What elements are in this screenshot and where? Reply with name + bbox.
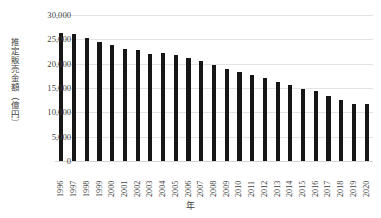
y-tick-label: 10,000: [25, 108, 71, 117]
x-tick-label: 1998: [82, 163, 92, 197]
bar: [212, 65, 216, 161]
y-axis-title: 推定販売金額（億円）: [4, 18, 18, 148]
y-tick-label: 5,000: [25, 133, 71, 142]
bar: [199, 61, 203, 161]
bar: [85, 38, 89, 161]
x-tick-label: 2020: [362, 163, 372, 197]
x-axis-ticks: 1996199719981999200020012002200320042005…: [55, 163, 373, 197]
bar: [174, 55, 178, 161]
bar: [148, 54, 152, 161]
x-tick-label: 1997: [69, 163, 79, 197]
bar: [250, 75, 254, 161]
bar: [186, 58, 190, 161]
x-tick-label: 1996: [56, 163, 66, 197]
x-tick-label: 2009: [222, 163, 232, 197]
x-tick-label: 2015: [298, 163, 308, 197]
bar: [136, 50, 140, 161]
x-tick-label: 2007: [196, 163, 206, 197]
bar: [123, 49, 127, 161]
bar: [72, 34, 76, 161]
plot-area: [55, 15, 373, 161]
bar: [339, 100, 343, 161]
x-tick-label: 2004: [158, 163, 168, 197]
bar: [161, 53, 165, 161]
bar: [59, 33, 63, 161]
x-tick-label: 2016: [311, 163, 321, 197]
y-tick-label: 20,000: [25, 60, 71, 69]
y-tick-label: 25,000: [25, 35, 71, 44]
x-tick-label: 2003: [145, 163, 155, 197]
x-tick-label: 2005: [171, 163, 181, 197]
x-tick-label: 2008: [209, 163, 219, 197]
x-tick-label: 2002: [133, 163, 143, 197]
gridline: [55, 161, 373, 162]
bar: [237, 72, 241, 161]
x-tick-label: 2013: [273, 163, 283, 197]
bar-series: [55, 15, 373, 161]
bar: [225, 69, 229, 161]
x-tick-label: 2000: [107, 163, 117, 197]
bar: [288, 85, 292, 161]
y-tick-label: 30,000: [25, 11, 71, 20]
bar: [301, 89, 305, 161]
x-tick-label: 2018: [336, 163, 346, 197]
bar: [97, 42, 101, 161]
x-axis-title: 年: [0, 199, 381, 212]
bar: [314, 91, 318, 161]
y-tick-label: 15,000: [25, 84, 71, 93]
bar: [110, 45, 114, 161]
x-tick-label: 1999: [95, 163, 105, 197]
bar-chart: 推定販売金額（億円） 05,00010,00015,00020,00025,00…: [0, 0, 381, 218]
x-tick-label: 2012: [260, 163, 270, 197]
bar: [326, 96, 330, 161]
x-tick-label: 2010: [234, 163, 244, 197]
bar: [352, 104, 356, 161]
x-tick-label: 2017: [323, 163, 333, 197]
bar: [263, 78, 267, 161]
x-tick-label: 2019: [349, 163, 359, 197]
x-tick-label: 2006: [184, 163, 194, 197]
x-tick-label: 2001: [120, 163, 130, 197]
bar: [276, 82, 280, 161]
x-tick-label: 2014: [285, 163, 295, 197]
x-tick-label: 2011: [247, 163, 257, 197]
bar: [365, 104, 369, 161]
